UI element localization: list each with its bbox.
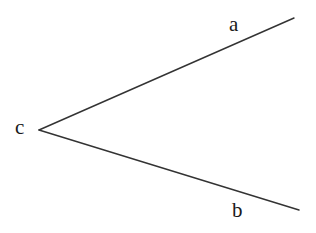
label-b: b: [232, 200, 243, 221]
angle-diagram: [0, 0, 316, 233]
label-a: a: [229, 14, 238, 35]
ray-b-line: [39, 130, 299, 210]
ray-a-line: [39, 18, 294, 130]
label-c-vertex: c: [15, 117, 24, 138]
